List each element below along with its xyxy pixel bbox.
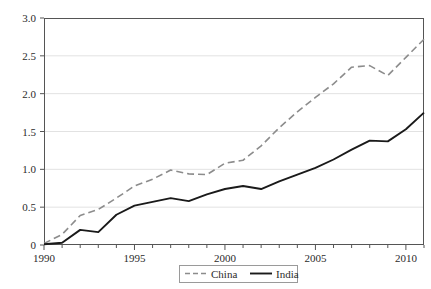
- legend-label-china: China: [211, 268, 237, 280]
- x-tick-label: 1990: [33, 252, 56, 264]
- legend-label-india: India: [276, 268, 299, 280]
- x-tick-label: 1995: [123, 252, 146, 264]
- line-chart: 00.51.01.52.02.53.019901995200020052010C…: [0, 0, 431, 289]
- x-tick-label: 2010: [395, 252, 418, 264]
- series-line-india: [44, 113, 424, 245]
- y-tick-label: 3.0: [22, 12, 36, 24]
- y-tick-label: 1.0: [22, 163, 36, 175]
- y-tick-label: 0: [31, 239, 37, 251]
- x-tick-label: 2005: [304, 252, 327, 264]
- legend: ChinaIndia: [180, 266, 299, 283]
- chart-canvas: 00.51.01.52.02.53.019901995200020052010C…: [0, 0, 431, 289]
- grid-lines: [44, 56, 424, 207]
- y-tick-label: 1.5: [22, 126, 36, 138]
- y-axis: 00.51.01.52.02.53.0: [22, 12, 44, 251]
- data-series-group: [44, 39, 424, 244]
- x-axis: 19901995200020052010: [33, 245, 424, 264]
- y-tick-label: 0.5: [22, 201, 36, 213]
- x-tick-label: 2000: [214, 252, 237, 264]
- y-tick-label: 2.0: [22, 88, 36, 100]
- y-tick-label: 2.5: [22, 50, 36, 62]
